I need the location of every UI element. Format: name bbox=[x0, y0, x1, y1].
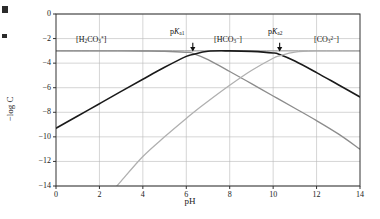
x-tick-label: 14 bbox=[350, 190, 370, 199]
x-tick-label: 4 bbox=[133, 190, 153, 199]
species-label-co3: [CO32−] bbox=[314, 35, 339, 44]
x-tick-label: 10 bbox=[263, 190, 283, 199]
y-tick-label: −10 bbox=[27, 132, 51, 141]
annotation-label-pka2: pKa2 bbox=[268, 27, 282, 36]
x-tick-label: 6 bbox=[176, 190, 196, 199]
y-tick-label: −6 bbox=[27, 83, 51, 92]
x-tick-label: 2 bbox=[89, 190, 109, 199]
y-tick-label: −2 bbox=[27, 34, 51, 43]
figure-root: pH −log C 02468101214 0−2−4−6−8−10−12−14… bbox=[0, 0, 380, 219]
chart-canvas bbox=[0, 0, 380, 219]
series-group bbox=[56, 51, 360, 186]
log-concentration-chart bbox=[0, 0, 380, 219]
annotation-label-pka1: pKa1 bbox=[170, 27, 184, 36]
y-tick-label: −8 bbox=[27, 107, 51, 116]
series-line-h2co3 bbox=[56, 51, 360, 149]
x-tick-label: 0 bbox=[46, 190, 66, 199]
species-label-h2co3: [H2CO3*] bbox=[76, 35, 106, 44]
x-tick-label: 8 bbox=[220, 190, 240, 199]
y-axis-title: −log C bbox=[5, 79, 15, 139]
series-line-co3 bbox=[117, 51, 360, 186]
y-tick-label: −4 bbox=[27, 58, 51, 67]
x-tick-label: 12 bbox=[307, 190, 327, 199]
y-tick-label: 0 bbox=[27, 9, 51, 18]
y-tick-label: −12 bbox=[27, 156, 51, 165]
species-label-hco3: [HCO3−] bbox=[214, 35, 242, 44]
y-tick-label: −14 bbox=[27, 181, 51, 190]
series-line-hco3 bbox=[56, 51, 360, 128]
